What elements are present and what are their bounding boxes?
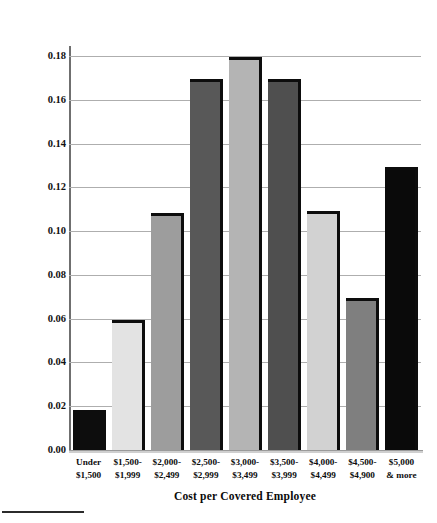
y-axis-tick-label: 0.18 (24, 51, 66, 62)
bar-chart: Percent of Firms 0.180.160.140.120.100.0… (0, 0, 437, 523)
bar-face (151, 216, 181, 450)
x-axis-line (69, 450, 423, 451)
y-axis-tick-label: 0.04 (24, 357, 66, 368)
footer-rule (2, 511, 84, 513)
bar-right-edge (142, 322, 145, 451)
bar-top-edge (268, 79, 301, 82)
bar-top-edge (73, 410, 106, 413)
bar-right-edge (259, 59, 262, 451)
bar-face (385, 170, 415, 450)
bar-top-edge (307, 211, 340, 214)
x-axis-tick-label-line: & more (378, 469, 425, 482)
bar-right-edge (181, 215, 184, 451)
y-axis-tick-label: 0.00 (24, 445, 66, 456)
bar-right-edge (415, 169, 418, 451)
bar-right-edge (298, 81, 301, 451)
y-axis-tick-label: 0.16 (24, 95, 66, 106)
bar-top-edge (229, 57, 262, 60)
bar-right-edge (103, 412, 106, 451)
bar (112, 323, 142, 450)
bar-top-edge (190, 79, 223, 82)
x-axis-tick-labels: Under$1,500$1,500-$1,999$2,000-$2,499$2,… (69, 456, 421, 490)
bar (73, 413, 103, 450)
bar-right-edge (376, 300, 379, 451)
bar (307, 214, 337, 450)
bar (151, 216, 181, 450)
bar-face (229, 60, 259, 450)
y-axis-tick-label: 0.14 (24, 139, 66, 150)
bar (190, 82, 220, 450)
y-axis-tick-label: 0.10 (24, 226, 66, 237)
y-axis-tick-label: 0.12 (24, 182, 66, 193)
x-axis-title: Cost per Covered Employee (69, 490, 421, 502)
bar-face (307, 214, 337, 450)
bar-face (346, 301, 376, 450)
bar-top-edge (385, 167, 418, 170)
bar-series (69, 50, 421, 450)
bar-face (268, 82, 298, 450)
x-axis-tick-label: $5,000& more (378, 456, 425, 481)
y-axis-tick-label: 0.06 (24, 314, 66, 325)
bar (229, 60, 259, 450)
y-axis-tick-labels: 0.180.160.140.120.100.080.060.040.020.00 (0, 0, 66, 523)
bar (268, 82, 298, 450)
bar-face (73, 413, 103, 450)
plot-area (69, 50, 421, 450)
bar-top-edge (346, 298, 379, 301)
bar-top-edge (112, 320, 145, 323)
y-axis-tick-label: 0.08 (24, 270, 66, 281)
bar-face (190, 82, 220, 450)
x-axis-tick-label-line: $5,000 (378, 456, 425, 469)
bar-face (112, 323, 142, 450)
bar-right-edge (220, 81, 223, 451)
y-axis-tick-label: 0.02 (24, 401, 66, 412)
bar-top-edge (151, 213, 184, 216)
bar-right-edge (337, 213, 340, 451)
bar (346, 301, 376, 450)
bar (385, 170, 415, 450)
